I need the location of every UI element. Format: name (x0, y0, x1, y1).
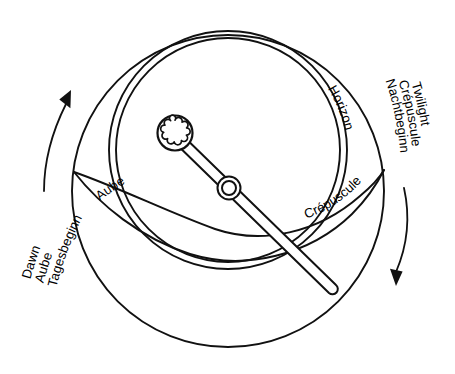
label-horizon: Horizon (325, 83, 357, 132)
center-hub[interactable] (218, 177, 241, 200)
label-crepuscule: Crépuscule (302, 173, 364, 222)
twilight-direction-arrow-icon (390, 188, 407, 286)
dawn-label-line3: Tagesbeginn (45, 212, 85, 288)
twilight-annotation-group: Twilight Crépuscule Nachtbeginn (383, 77, 434, 286)
astrolabe-svg: Horizon Crépuscule Aube Twilight Crépusc… (0, 0, 455, 374)
dawn-direction-arrow-icon (44, 90, 71, 191)
sun-marker[interactable] (158, 115, 193, 150)
dawn-annotation-group: Dawn Aube Tagesbeginn (19, 90, 85, 288)
astrolabe-diagram: Horizon Crépuscule Aube Twilight Crépusc… (0, 0, 455, 374)
